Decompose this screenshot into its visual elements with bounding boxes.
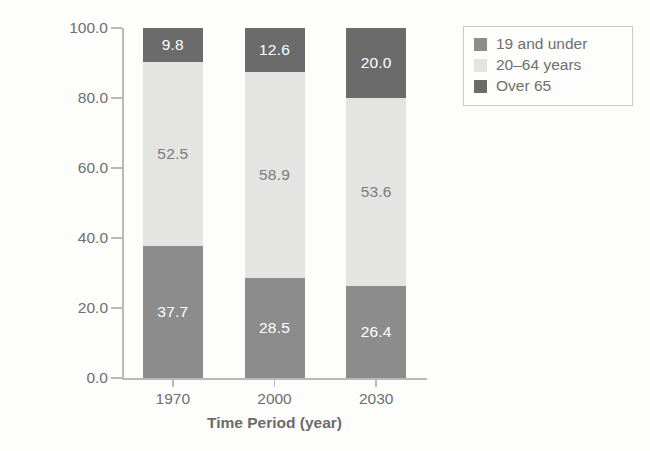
bar-value-label: 58.9: [259, 166, 290, 184]
x-axis-tick: [172, 378, 174, 387]
bar-group[interactable]: 26.453.620.0: [346, 28, 406, 378]
legend-item-label: Over 65: [496, 77, 551, 95]
stacked-bar-chart: Number of People (millions) 0.020.040.06…: [0, 0, 650, 451]
y-axis-tick-label: 0.0: [86, 369, 108, 387]
bar-segment[interactable]: 12.6: [245, 28, 305, 72]
bar-segment[interactable]: 53.6: [346, 98, 406, 286]
x-axis-tick: [375, 378, 377, 387]
y-axis-line: [122, 28, 124, 378]
x-axis-tick-label: 2030: [359, 390, 393, 408]
bar-value-label: 37.7: [157, 303, 188, 321]
bar-segment[interactable]: 9.8: [143, 28, 203, 62]
legend-item-label: 19 and under: [496, 35, 587, 53]
y-axis-tick-label: 60.0: [78, 159, 108, 177]
plot-area: 0.020.040.060.080.0100.0197037.752.59.82…: [122, 28, 427, 378]
x-axis-tick: [274, 378, 276, 387]
legend-swatch-icon: [474, 38, 487, 51]
legend-item[interactable]: 20–64 years: [474, 55, 624, 75]
legend-swatch-icon: [474, 59, 487, 72]
x-axis-tick-label: 2000: [257, 390, 291, 408]
y-axis-tick-label: 20.0: [78, 299, 108, 317]
bar-group[interactable]: 37.752.59.8: [143, 28, 203, 378]
bar-segment[interactable]: 58.9: [245, 72, 305, 278]
legend: 19 and under20–64 yearsOver 65: [463, 26, 633, 106]
bar-value-label: 52.5: [157, 145, 188, 163]
legend-swatch-icon: [474, 80, 487, 93]
y-axis-tick: [111, 97, 122, 99]
bar-segment[interactable]: 37.7: [143, 246, 203, 378]
bar-value-label: 20.0: [361, 54, 392, 72]
bar-segment[interactable]: 28.5: [245, 278, 305, 378]
legend-item[interactable]: Over 65: [474, 76, 624, 96]
bar-value-label: 26.4: [361, 323, 392, 341]
bar-value-label: 12.6: [259, 41, 290, 59]
y-axis-tick: [111, 307, 122, 309]
y-axis-tick: [111, 27, 122, 29]
y-axis-tick: [111, 237, 122, 239]
legend-item-label: 20–64 years: [496, 56, 581, 74]
legend-item[interactable]: 19 and under: [474, 34, 624, 54]
bar-value-label: 53.6: [361, 183, 392, 201]
y-axis-tick: [111, 167, 122, 169]
bar-value-label: 9.8: [162, 36, 184, 54]
bar-segment[interactable]: 52.5: [143, 62, 203, 246]
bar-value-label: 28.5: [259, 319, 290, 337]
x-axis-title: Time Period (year): [122, 414, 427, 432]
bar-segment[interactable]: 26.4: [346, 286, 406, 378]
x-axis-tick-label: 1970: [156, 390, 190, 408]
bar-group[interactable]: 28.558.912.6: [245, 28, 305, 378]
y-axis-tick-label: 80.0: [78, 89, 108, 107]
y-axis-tick-label: 40.0: [78, 229, 108, 247]
bar-segment[interactable]: 20.0: [346, 28, 406, 98]
y-axis-tick-label: 100.0: [69, 19, 108, 37]
y-axis-tick: [111, 377, 122, 379]
